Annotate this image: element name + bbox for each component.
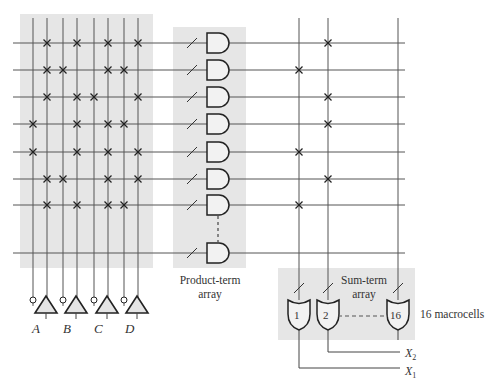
and-gate-icon [207, 33, 229, 53]
input-buffers [30, 296, 148, 319]
macrocells-label: 16 macrocells [420, 308, 484, 320]
sum-term-label-line1: Sum-term [334, 273, 394, 287]
and-gate-icon [207, 169, 229, 189]
input-label-c: C [94, 321, 103, 337]
sum-term-label-line2: array [334, 287, 394, 301]
inverter-bubble-icon [30, 297, 36, 303]
or-gate-label-1: 1 [294, 309, 300, 321]
output-label-x2: X2 [405, 346, 416, 362]
inverter-bubble-icon [121, 297, 127, 303]
output-label-x1-sub: 1 [412, 371, 416, 380]
input-label-d: D [125, 321, 134, 337]
product-term-label: Product-term array [170, 273, 250, 301]
input-buffer-icon [65, 296, 87, 313]
input-buffer-icon [126, 296, 148, 313]
product-term-label-line1: Product-term [170, 273, 250, 287]
and-gate-icon [207, 243, 229, 263]
and-gate-icon [207, 87, 229, 107]
output-label-x2-sub: 2 [412, 353, 416, 362]
and-gate-icon [207, 60, 229, 80]
input-buffer-icon [96, 296, 118, 313]
inverter-bubble-icon [60, 297, 66, 303]
sum-term-label: Sum-term array [334, 273, 394, 301]
or-gate-label-2: 2 [323, 309, 329, 321]
product-term-label-line2: array [170, 287, 250, 301]
input-buffer-icon [35, 296, 57, 313]
input-label-b: B [63, 321, 71, 337]
output-label-x1: X1 [405, 364, 416, 380]
and-gate-icon [207, 114, 229, 134]
and-gate-icon [207, 142, 229, 162]
input-label-a: A [32, 321, 40, 337]
inverter-bubble-icon [91, 297, 97, 303]
cpld-diagram [0, 0, 493, 391]
and-gate-icon [207, 195, 229, 215]
or-gate-label-16: 16 [390, 309, 401, 321]
input-array-shade [20, 14, 153, 268]
sum-column-lines [294, 18, 403, 300]
